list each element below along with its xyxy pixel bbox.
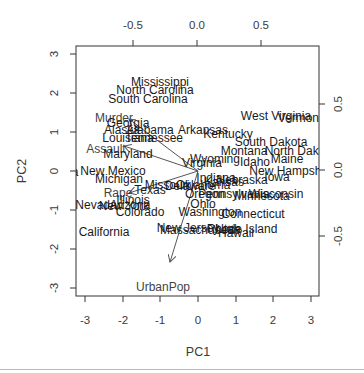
state-label: California — [79, 225, 130, 239]
state-label: South Carolina — [108, 92, 188, 106]
state-labels: Mississippi North Carolina South Carolin… — [42, 75, 336, 240]
state-label: Maryland — [103, 147, 152, 161]
right-tick-label: 0.0 — [332, 162, 344, 178]
x-tick-label: 3 — [308, 314, 314, 326]
state-label: Colorado — [116, 205, 165, 219]
left-axis — [70, 54, 76, 288]
y-tick-label: 3 — [48, 51, 60, 57]
x-tick-label: -1 — [155, 314, 165, 326]
x-tick-label: -3 — [80, 314, 90, 326]
top-tick-label: -0.5 — [123, 19, 143, 31]
bottom-axis — [85, 296, 311, 302]
y-tick-label: 1 — [48, 129, 60, 135]
x-tick-label: -2 — [118, 314, 128, 326]
state-label: Iowa — [264, 170, 290, 184]
y-tick-label: 0 — [48, 168, 60, 174]
state-label: Wisconsin — [249, 187, 304, 201]
top-tick-label: 0.0 — [189, 19, 205, 31]
bottom-separator — [0, 369, 364, 370]
state-label: Connecticut — [221, 207, 285, 221]
x-axis-title: PC1 — [186, 345, 210, 359]
state-label: Tennessee — [125, 131, 183, 145]
biplot-svg: -3 -2 -1 0 1 2 3 PC1 -0.5 0.0 0.5 -3 -2 … — [0, 0, 364, 373]
loading-label: UrbanPop — [136, 280, 190, 294]
right-tick-label: -0.5 — [332, 226, 344, 246]
state-label: Virginia — [182, 156, 222, 170]
state-label: Vermont — [278, 111, 323, 125]
right-tick-label: 0.5 — [332, 96, 344, 112]
right-axis — [319, 104, 325, 236]
y-tick-label: 2 — [48, 90, 60, 96]
x-tick-label: 1 — [233, 314, 239, 326]
top-tick-label: 0.5 — [253, 19, 269, 31]
top-axis — [133, 40, 261, 46]
state-label: Hawaii — [218, 226, 254, 240]
x-tick-label: 0 — [195, 314, 201, 326]
state-label: Nebraska — [216, 173, 268, 187]
y-tick-label: -2 — [48, 244, 60, 254]
y-axis-title: PC2 — [15, 159, 29, 183]
y-tick-label: -3 — [48, 283, 60, 293]
x-tick-label: 2 — [270, 314, 276, 326]
y-tick-label: -1 — [48, 205, 60, 215]
